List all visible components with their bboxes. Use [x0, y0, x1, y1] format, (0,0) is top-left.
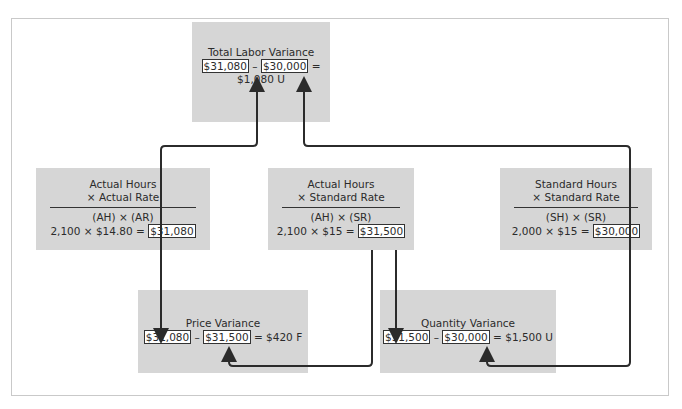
- arrow-total-standard: [304, 84, 630, 300]
- arrow-to-quantity-standard: [487, 300, 630, 366]
- arrow-total-actual: [161, 84, 257, 336]
- arrow-to-price-standard: [229, 250, 372, 366]
- connector-arrows: [0, 0, 682, 409]
